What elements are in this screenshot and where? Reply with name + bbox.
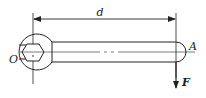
pivot-point bbox=[32, 55, 34, 57]
point-a-label: A bbox=[188, 40, 197, 53]
hex-nut-icon bbox=[22, 44, 44, 61]
pivot-o-label: O bbox=[9, 53, 18, 66]
distance-label: d bbox=[96, 6, 103, 19]
wrench-diagram: d A O F bbox=[0, 0, 206, 98]
force-label: F bbox=[181, 76, 191, 89]
